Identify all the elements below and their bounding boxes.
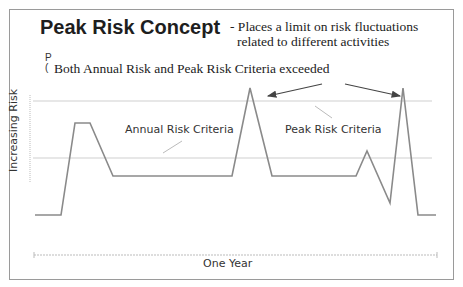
- y-axis-label: Increasing Risk: [7, 89, 20, 172]
- annual-label-pointer: [163, 141, 182, 153]
- callout-arrow-right: [345, 84, 400, 96]
- annual-risk-label: Annual Risk Criteria: [125, 123, 234, 136]
- callout-arrow-left: [268, 84, 322, 96]
- peak-risk-label: Peak Risk Criteria: [285, 123, 382, 136]
- risk-profile-line: [35, 88, 436, 215]
- x-axis-label: One Year: [203, 257, 252, 270]
- risk-chart: [0, 0, 463, 287]
- peak-label-pointer: [315, 106, 332, 118]
